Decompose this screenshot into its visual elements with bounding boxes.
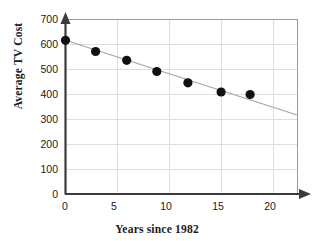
plot-border <box>66 20 298 195</box>
data-point <box>246 90 255 99</box>
data-point <box>91 47 100 56</box>
data-point <box>152 67 161 76</box>
horizontal-gridlines <box>66 45 297 170</box>
plot-area <box>0 0 314 241</box>
chart-container: Average TV Cost Years since 1982 700 600… <box>0 0 314 241</box>
data-points <box>61 36 255 99</box>
right-arrow-icon <box>299 189 311 199</box>
vertical-gridlines <box>118 20 274 194</box>
data-point <box>183 78 192 87</box>
data-point <box>217 87 226 96</box>
trend-line <box>66 40 298 115</box>
data-point <box>122 56 131 65</box>
up-arrow-icon <box>61 12 71 24</box>
data-point <box>61 36 70 45</box>
